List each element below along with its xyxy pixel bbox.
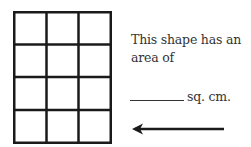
- unit-label: sq. cm.: [187, 89, 231, 104]
- prompt-line-2: area of: [131, 50, 174, 65]
- arrow-left-icon: [131, 121, 227, 133]
- answer-row: sq. cm.: [130, 89, 231, 104]
- unit-square-grid: [13, 11, 112, 144]
- grid-figure: [13, 11, 112, 144]
- prompt-line-1: This shape has an: [131, 32, 241, 47]
- answer-blank[interactable]: [130, 91, 184, 101]
